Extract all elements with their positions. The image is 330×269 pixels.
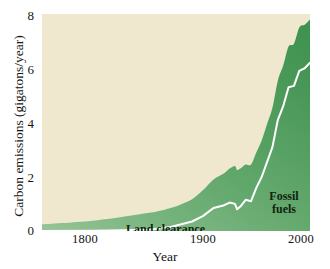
- carbon-emissions-figure: 8 6 4 2 0 Carbon emissions (gigatons/yea…: [0, 0, 330, 269]
- y-axis-title: Carbon emissions (gigatons/year): [11, 11, 27, 241]
- y-tick-4: 4: [28, 117, 35, 130]
- y-tick-8: 8: [28, 9, 35, 22]
- annotation-fossil-fuels-line2: fuels: [264, 203, 304, 216]
- x-axis-title: Year: [0, 249, 330, 265]
- y-tick-2: 2: [28, 171, 35, 184]
- x-tick-2000: 2000: [288, 233, 314, 246]
- x-tick-1800: 1800: [72, 233, 98, 246]
- annotation-fossil-fuels-line1: Fossil: [264, 190, 304, 203]
- y-tick-6: 6: [28, 63, 35, 76]
- x-axis-tick-labels: 1800 1900 2000: [0, 233, 330, 249]
- x-tick-1900: 1900: [190, 233, 216, 246]
- annotation-fossil-fuels: Fossil fuels: [264, 190, 304, 217]
- annotation-land-clearance: Land clearance: [126, 223, 205, 231]
